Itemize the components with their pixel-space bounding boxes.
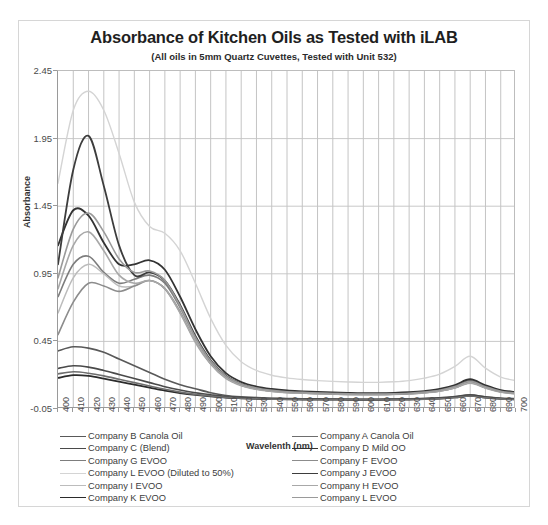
x-tick-mark: [255, 408, 256, 412]
x-tick-mark: [347, 408, 348, 412]
legend-line-swatch: [292, 485, 318, 486]
x-tick-label: 550: [290, 397, 300, 412]
y-tick-mark: [53, 70, 57, 71]
x-tick-mark: [332, 408, 333, 412]
x-tick-mark: [103, 408, 104, 412]
x-tick-mark: [72, 408, 73, 412]
x-tick-mark: [423, 408, 424, 412]
y-tick-mark: [53, 273, 57, 274]
x-tick-mark: [240, 408, 241, 412]
legend-line-swatch: [60, 485, 86, 486]
y-tick-label: 1.45: [10, 200, 52, 211]
x-tick-label: 400: [61, 397, 71, 412]
chart-title: Absorbance of Kitchen Oils as Tested wit…: [18, 28, 530, 47]
x-tick-label: 480: [183, 397, 193, 412]
legend-label: Company L EVOO: [320, 492, 397, 504]
x-tick-label: 680: [488, 397, 498, 412]
legend-line-swatch: [60, 473, 86, 474]
y-tick-mark: [53, 205, 57, 206]
legend-line-swatch: [60, 436, 86, 437]
chart-subtitle: (All oils in 5mm Quartz Cuvettes, Tested…: [18, 51, 530, 62]
x-tick-label: 600: [366, 397, 376, 412]
y-tick-mark: [53, 340, 57, 341]
x-tick-label: 570: [321, 397, 331, 412]
x-tick-label: 690: [504, 397, 514, 412]
x-tick-mark: [57, 408, 58, 412]
legend-item[interactable]: Company B Canola Oil: [60, 430, 288, 442]
x-tick-mark: [271, 408, 272, 412]
legend-item[interactable]: Company L EVOO: [292, 492, 520, 504]
legend-item[interactable]: Company I EVOO: [60, 480, 288, 492]
legend-label: Company C (Blend): [88, 442, 170, 454]
x-tick-label: 700: [519, 397, 529, 412]
x-tick-mark: [164, 408, 165, 412]
y-tick-label: 0.95: [10, 267, 52, 278]
legend-item[interactable]: Company G EVOO: [60, 455, 288, 467]
legend-line-swatch: [292, 497, 318, 498]
legend-item[interactable]: Company J EVOO: [292, 467, 520, 479]
x-tick-label: 420: [92, 397, 102, 412]
y-tick-label: -0.05: [10, 403, 52, 414]
y-tick-mark: [53, 138, 57, 139]
y-tick-label: 2.45: [10, 65, 52, 76]
legend-column-left: Company B Canola OilCompany C (Blend)Com…: [60, 430, 288, 504]
legend-label: Company F EVOO: [320, 455, 398, 467]
legend-item[interactable]: Company A Canola Oil: [292, 430, 520, 442]
x-tick-label: 620: [397, 397, 407, 412]
x-tick-label: 650: [443, 397, 453, 412]
legend-line-swatch: [292, 460, 318, 461]
x-tick-label: 520: [244, 397, 254, 412]
x-tick-label: 640: [427, 397, 437, 412]
x-tick-mark: [225, 408, 226, 412]
legend-label: Company B Canola Oil: [88, 430, 183, 442]
y-tick-label: 1.95: [10, 132, 52, 143]
legend-item[interactable]: Company L EVOO (Diluted to 50%): [60, 467, 288, 479]
x-tick-label: 470: [168, 397, 178, 412]
x-tick-label: 530: [259, 397, 269, 412]
x-tick-label: 440: [122, 397, 132, 412]
legend-item[interactable]: Company C (Blend): [60, 442, 288, 454]
x-tick-label: 450: [137, 397, 147, 412]
legend-column-right: Company A Canola OilCompany D Mild OOCom…: [292, 430, 520, 504]
x-tick-label: 500: [214, 397, 224, 412]
legend-label: Company D Mild OO: [320, 442, 406, 454]
x-tick-mark: [484, 408, 485, 412]
x-tick-label: 460: [153, 397, 163, 412]
x-tick-mark: [133, 408, 134, 412]
x-tick-mark: [118, 408, 119, 412]
legend-label: Company K EVOO: [88, 492, 166, 504]
x-tick-label: 670: [473, 397, 483, 412]
legend-item[interactable]: Company D Mild OO: [292, 442, 520, 454]
legend-line-swatch: [292, 448, 318, 449]
legend-item[interactable]: Company H EVOO: [292, 480, 520, 492]
legend-label: Company H EVOO: [320, 480, 399, 492]
x-tick-mark: [194, 408, 195, 412]
legend-line-swatch: [292, 473, 318, 474]
x-tick-mark: [149, 408, 150, 412]
x-tick-mark: [515, 408, 516, 412]
x-tick-label: 630: [412, 397, 422, 412]
legend-line-swatch: [60, 448, 86, 449]
legend-line-swatch: [60, 497, 86, 498]
x-tick-label: 660: [458, 397, 468, 412]
x-tick-mark: [210, 408, 211, 412]
legend-item[interactable]: Company F EVOO: [292, 455, 520, 467]
x-tick-label: 540: [275, 397, 285, 412]
x-tick-mark: [88, 408, 89, 412]
x-tick-mark: [393, 408, 394, 412]
legend-line-swatch: [60, 460, 86, 461]
x-tick-label: 610: [382, 397, 392, 412]
x-tick-mark: [439, 408, 440, 412]
chart-legend: Company B Canola OilCompany C (Blend)Com…: [60, 430, 520, 502]
x-tick-label: 580: [336, 397, 346, 412]
legend-label: Company J EVOO: [320, 467, 396, 479]
legend-label: Company A Canola Oil: [320, 430, 414, 442]
x-tick-mark: [408, 408, 409, 412]
x-tick-mark: [301, 408, 302, 412]
x-tick-label: 490: [198, 397, 208, 412]
x-tick-mark: [317, 408, 318, 412]
legend-item[interactable]: Company K EVOO: [60, 492, 288, 504]
x-tick-mark: [179, 408, 180, 412]
y-tick-mark: [53, 408, 57, 409]
x-tick-mark: [362, 408, 363, 412]
